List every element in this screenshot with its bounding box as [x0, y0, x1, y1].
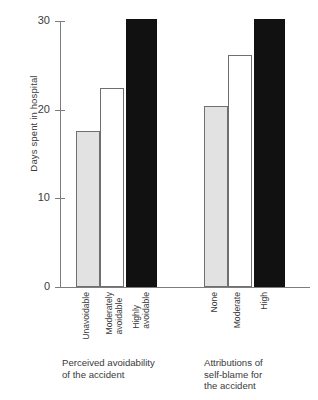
- group-caption-attributions-self-blame: Attributions of self-blame for the accid…: [204, 357, 314, 392]
- y-axis-title: Days spent in hospital: [28, 44, 39, 204]
- bar-unavoidable: [76, 131, 100, 287]
- bar-none: [204, 106, 228, 287]
- bar-chart-figure: Days spent in hospital 0 10 20 30 Unavoi…: [0, 0, 318, 400]
- x-label-high: High: [260, 292, 270, 310]
- y-tick-label-0: 0: [44, 280, 50, 292]
- bar-highly-avoidable: [126, 19, 157, 287]
- bar-moderate: [228, 55, 252, 287]
- bar-moderately-avoidable: [100, 88, 124, 287]
- plot-area: 0 10 20 30: [60, 18, 310, 288]
- x-label-none: None: [210, 292, 220, 313]
- x-label-highly-avoidable: Highly avoidable: [132, 292, 151, 329]
- group-caption-perceived-avoidability: Perceived avoidability of the accident: [62, 357, 187, 380]
- y-tick-label-20: 20: [38, 103, 50, 115]
- y-tick-label-10: 10: [38, 191, 50, 203]
- x-label-unavoidable: Unavoidable: [82, 292, 92, 340]
- x-label-moderate: Moderate: [233, 292, 243, 328]
- category-labels: Unavoidable Moderately avoidable Highly …: [60, 292, 310, 350]
- x-label-moderately-avoidable: Moderately avoidable: [105, 292, 124, 335]
- bars-layer: [60, 18, 310, 288]
- bar-high: [254, 19, 285, 287]
- y-tick-label-30: 30: [38, 14, 50, 26]
